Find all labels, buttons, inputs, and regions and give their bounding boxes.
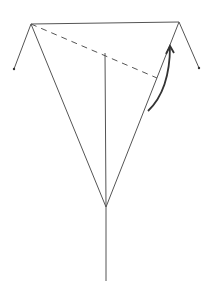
diagram-lines bbox=[13, 22, 200, 281]
right-flap-line bbox=[179, 22, 199, 68]
top-edge-line bbox=[31, 22, 179, 24]
fold-arrow-group bbox=[148, 46, 174, 111]
center-crease-line bbox=[105, 53, 106, 207]
left-flap-tip-dot bbox=[13, 68, 15, 70]
origami-diagram bbox=[0, 0, 216, 282]
curved-arrow-icon bbox=[148, 46, 170, 111]
diagram-svg bbox=[0, 0, 216, 282]
left-flap-line bbox=[14, 24, 31, 69]
right-flap-tip-dot bbox=[198, 67, 200, 69]
